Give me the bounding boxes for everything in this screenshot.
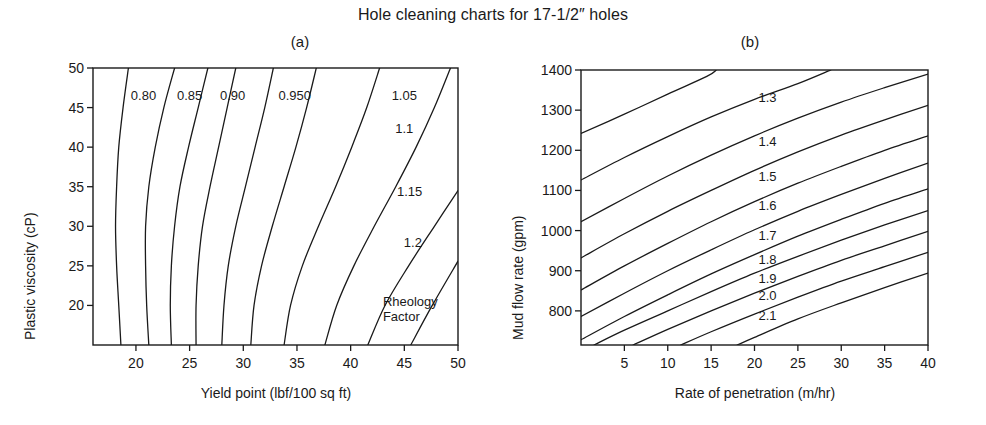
- contour-line: [251, 68, 316, 345]
- contour-label: 0.80: [131, 87, 156, 102]
- x-axis-tick-label: 40: [343, 355, 359, 371]
- contour-line: [196, 68, 236, 345]
- y-axis-tick-label: 1200: [541, 142, 572, 158]
- contour-label: 1.9: [758, 271, 776, 286]
- x-axis-tick-label: 35: [289, 355, 305, 371]
- contour-label: 1.3: [758, 90, 776, 105]
- contour-label: 1.7: [758, 227, 776, 242]
- contour-label: 1.2: [404, 235, 422, 250]
- x-axis-tick-label: 30: [834, 355, 850, 371]
- y-axis-tick-label: 800: [549, 303, 572, 319]
- y-axis-tick-label: 45: [68, 100, 84, 116]
- contour-line: [681, 252, 928, 345]
- contour-label: 0.90: [220, 87, 245, 102]
- y-axis-tick-label: 30: [68, 218, 84, 234]
- y-axis-tick-label: 25: [68, 258, 84, 274]
- contour-label: 0.85: [177, 87, 202, 102]
- y-axis-tick-label: 900: [549, 263, 572, 279]
- contour-line: [581, 189, 928, 340]
- y-axis-tick-label: 1400: [541, 62, 572, 78]
- x-axis-tick-label: 45: [397, 355, 413, 371]
- x-axis-tick-label: 20: [128, 355, 144, 371]
- y-axis-tick-label: 1100: [542, 182, 572, 198]
- contour-label: 1.4: [758, 133, 776, 148]
- x-axis-tick-label: 15: [703, 355, 719, 371]
- contour-line: [581, 74, 928, 222]
- contour-curves: [581, 70, 928, 345]
- y-axis-tick-label: 50: [68, 60, 84, 76]
- x-axis-tick-label: 35: [877, 355, 893, 371]
- x-axis-tick-label: 20: [747, 355, 763, 371]
- contour-line: [222, 68, 274, 345]
- x-axis-tick-label: 50: [450, 355, 466, 371]
- panel-a-plot: [87, 68, 458, 351]
- y-axis-tick-label: 1000: [541, 223, 572, 239]
- contour-label: 0.950: [279, 87, 312, 102]
- contour-label: 2.0: [758, 287, 776, 302]
- panel-b-plot: [575, 70, 928, 351]
- contour-label: 1.1: [395, 121, 413, 136]
- contour-label: 1.15: [397, 183, 422, 198]
- contour-label: 1.05: [392, 87, 417, 102]
- x-axis-tick-label: 25: [182, 355, 198, 371]
- y-axis-tick-label: 35: [68, 179, 84, 195]
- y-axis-tick-label: 1300: [541, 102, 572, 118]
- x-axis-tick-label: 30: [236, 355, 252, 371]
- hole-cleaning-charts-figure: Hole cleaning charts for 17-1/2″ holes (…: [0, 0, 986, 425]
- x-axis-tick-label: 10: [660, 355, 676, 371]
- plot-frame: [93, 68, 458, 345]
- contour-line: [170, 68, 208, 345]
- contour-line: [325, 68, 451, 345]
- contour-line: [116, 68, 129, 345]
- contour-label: 1.6: [758, 197, 776, 212]
- y-axis-tick-label: 20: [68, 297, 84, 313]
- contour-line: [284, 68, 380, 345]
- y-axis-tick-label: 40: [68, 139, 84, 155]
- contour-line: [581, 70, 831, 180]
- plot-frame: [581, 70, 928, 345]
- contour-line: [581, 136, 928, 290]
- x-axis-tick-label: 25: [790, 355, 806, 371]
- x-axis-tick-label: 5: [620, 355, 628, 371]
- contour-label: 1.8: [758, 251, 776, 266]
- x-axis-tick-label: 40: [920, 355, 936, 371]
- contour-label: 2.1: [758, 307, 776, 322]
- contour-curves: [116, 68, 458, 345]
- contour-label: 1.5: [758, 169, 776, 184]
- contour-line: [411, 261, 458, 345]
